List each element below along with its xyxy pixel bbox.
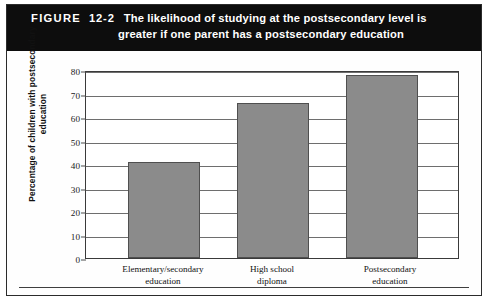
xlabel-3-line-1: Postsecondary <box>321 263 459 275</box>
figure-number: 12-2 <box>89 12 115 24</box>
ytick-label-80: 80 <box>71 67 80 77</box>
figure-title-line-2: greater if one parent has a postsecondar… <box>25 26 465 42</box>
ytick-label-20: 20 <box>71 208 80 218</box>
bars-layer <box>86 72 458 258</box>
x-axis-labels: Elementary/secondary education High scho… <box>85 263 459 293</box>
xlabel-2-line-1: High school <box>211 263 333 275</box>
ytick-label-50: 50 <box>71 138 80 148</box>
plot-area: 80 70 60 50 40 30 20 10 0 <box>85 71 459 259</box>
ytick-label-40: 40 <box>71 161 80 171</box>
bottom-rule <box>19 287 469 288</box>
figure-title-banner: FIGURE12-2The likelihood of studying at … <box>7 5 481 51</box>
xlabel-high-school-diploma: High school diploma <box>211 263 333 287</box>
xlabel-postsecondary-education: Postsecondary education <box>321 263 459 287</box>
figure-title-text-1: The likelihood of studying at the postse… <box>124 12 427 24</box>
ytick-label-10: 10 <box>71 232 80 242</box>
figure-frame: FIGURE12-2The likelihood of studying at … <box>6 4 482 296</box>
ytick-mark-0 <box>81 260 86 261</box>
bar-postsecondary-education[interactable] <box>346 75 418 258</box>
bar-high-school-diploma[interactable] <box>237 103 309 258</box>
y-axis-title-line-1: Percentage of children with <box>27 90 37 202</box>
ytick-label-0: 0 <box>75 255 80 265</box>
xlabel-2-line-2: diploma <box>211 275 333 287</box>
chart-body: Percentage of children with postsecondar… <box>7 51 481 295</box>
ytick-label-70: 70 <box>71 91 80 101</box>
ytick-label-60: 60 <box>71 114 80 124</box>
xlabel-3-line-2: education <box>321 275 459 287</box>
y-axis-title: Percentage of children with postsecondar… <box>27 21 49 207</box>
ytick-label-30: 30 <box>71 185 80 195</box>
figure-title-line-1: FIGURE12-2The likelihood of studying at … <box>25 10 465 26</box>
bar-elementary-secondary-education[interactable] <box>128 162 200 258</box>
